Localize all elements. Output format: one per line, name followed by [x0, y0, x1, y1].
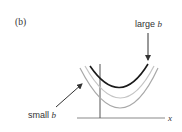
panel-label: (b) [15, 17, 26, 28]
diagram-canvas: (b) x large b small b [0, 0, 182, 132]
x-axis-label: x [167, 113, 172, 123]
small-b-arrow [56, 84, 82, 107]
large-b-label: large b [135, 19, 163, 29]
small-b-label: small b [28, 110, 57, 120]
large-b-curve [90, 64, 148, 88]
